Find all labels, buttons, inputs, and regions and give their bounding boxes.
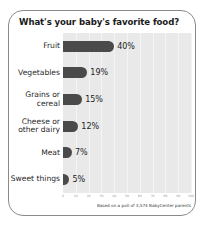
x-axis-tick-label: 90 [176, 194, 180, 198]
bar-row: Cheese or other dairy12% [63, 113, 191, 140]
bar-value-label: 40% [117, 42, 135, 51]
x-axis-tick-label: 30 [99, 194, 103, 198]
bar-row: Vegetables19% [63, 60, 191, 87]
gridline [191, 33, 192, 193]
page-title: What's your baby's favorite food? [19, 17, 179, 27]
x-axis-tick-label: 70 [151, 194, 155, 198]
bar [63, 174, 69, 185]
x-axis-tick-label: 50 [125, 194, 129, 198]
x-axis-tick-label: 60 [138, 194, 142, 198]
category-label: Cheese or other dairy [6, 118, 60, 135]
bar-value-label: 12% [81, 122, 99, 131]
x-axis: 0102030405060708090100 [63, 194, 191, 201]
chart-card: What's your baby's favorite food? Fruit4… [8, 10, 196, 216]
bar [63, 67, 87, 78]
bar-series: Fruit40%Vegetables19%Grains or cereal15%… [63, 33, 191, 193]
x-axis-tick-label: 40 [112, 194, 116, 198]
x-axis-tick-label: 10 [74, 194, 78, 198]
category-label: Fruit [6, 42, 60, 50]
chart-footnote: Based on a poll of 3,574 BabyCenter pare… [49, 203, 191, 208]
category-label: Meat [6, 149, 60, 157]
bar [63, 94, 82, 105]
bar-row: Sweet things5% [63, 166, 191, 193]
bar-value-label: 7% [75, 148, 88, 157]
bar-value-label: 19% [90, 68, 108, 77]
bar-row: Fruit40% [63, 33, 191, 60]
x-axis-tick-label: 80 [163, 194, 167, 198]
category-label: Grains or cereal [6, 91, 60, 108]
category-label: Vegetables [6, 69, 60, 77]
category-label: Sweet things [6, 175, 60, 183]
bar [63, 147, 72, 158]
bar-row: Grains or cereal15% [63, 86, 191, 113]
bar-value-label: 15% [85, 95, 103, 104]
bar [63, 41, 114, 52]
bar [63, 121, 78, 132]
x-axis-tick-label: 100 [188, 194, 194, 198]
bar-row: Meat7% [63, 140, 191, 167]
plot-area: Fruit40%Vegetables19%Grains or cereal15%… [63, 33, 191, 193]
x-axis-tick-label: 0 [62, 194, 64, 198]
bar-value-label: 5% [72, 175, 85, 184]
x-axis-tick-label: 20 [87, 194, 91, 198]
